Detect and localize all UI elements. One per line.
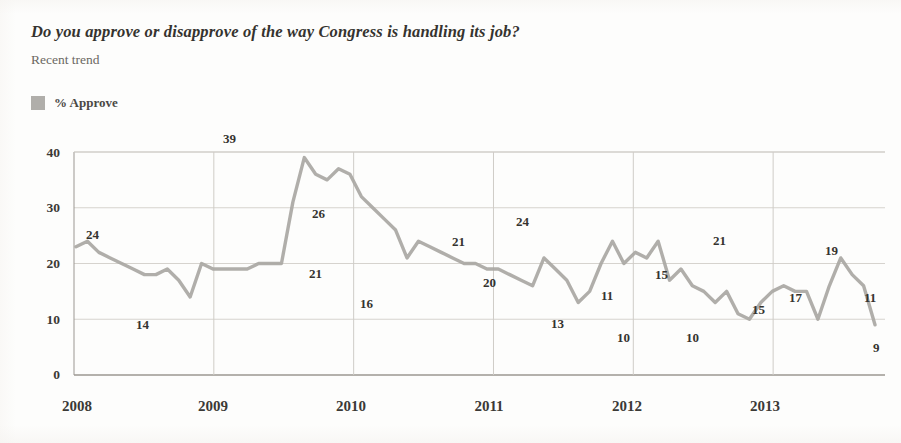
data-point-label: 11	[864, 290, 876, 306]
data-point-label: 21	[309, 266, 322, 282]
data-point-label: 10	[617, 330, 630, 346]
data-point-label: 24	[516, 214, 529, 230]
data-point-label: 21	[452, 234, 465, 250]
data-point-label: 21	[713, 233, 726, 249]
data-point-label: 17	[789, 290, 802, 306]
x-axis-tick-label: 2008	[42, 398, 112, 415]
data-point-label: 24	[86, 227, 99, 243]
y-axis-tick-label: 0	[26, 367, 60, 383]
plot-area	[0, 0, 901, 443]
data-point-label: 26	[312, 206, 325, 222]
data-point-label: 15	[655, 267, 668, 283]
data-point-label: 11	[601, 288, 613, 304]
data-point-label: 10	[686, 330, 699, 346]
y-axis-tick-label: 20	[26, 256, 60, 272]
data-point-label: 20	[483, 275, 496, 291]
series-line-approve	[76, 158, 875, 325]
data-point-label: 16	[360, 296, 373, 312]
data-point-label: 13	[551, 316, 564, 332]
x-axis-tick-label: 2012	[592, 398, 662, 415]
y-axis-tick-label: 10	[26, 312, 60, 328]
data-point-label: 9	[873, 340, 880, 356]
y-axis-tick-label: 30	[26, 200, 60, 216]
y-axis-tick-label: 40	[26, 145, 60, 161]
data-point-label: 19	[825, 243, 838, 259]
data-point-label: 15	[752, 302, 765, 318]
x-axis-tick-label: 2011	[454, 398, 524, 415]
data-point-label: 39	[223, 131, 236, 147]
chart-figure: Do you approve or disapprove of the way …	[0, 0, 901, 443]
x-axis-tick-label: 2013	[730, 398, 800, 415]
line-chart-svg	[0, 0, 901, 443]
data-point-label: 14	[136, 317, 149, 333]
x-axis-tick-label: 2009	[178, 398, 248, 415]
gridlines	[74, 152, 885, 375]
x-axis-tick-label: 2010	[316, 398, 386, 415]
